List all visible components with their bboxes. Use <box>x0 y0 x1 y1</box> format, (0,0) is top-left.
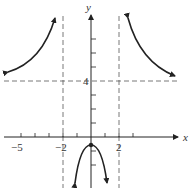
local-max-point <box>89 143 93 147</box>
right-branch-curve <box>128 18 175 76</box>
tick-label-4: 4 <box>83 75 89 87</box>
x-axis-label: x <box>182 131 188 143</box>
tick-label-minus5: −5 <box>11 141 23 153</box>
left-branch-curve <box>8 18 55 72</box>
y-axis-label: y <box>85 1 91 13</box>
function-graph: y x −5 −2 2 4 <box>0 0 193 188</box>
tick-label-minus2: −2 <box>55 141 67 153</box>
tick-label-2: 2 <box>116 141 122 153</box>
x-ticks <box>21 133 133 137</box>
